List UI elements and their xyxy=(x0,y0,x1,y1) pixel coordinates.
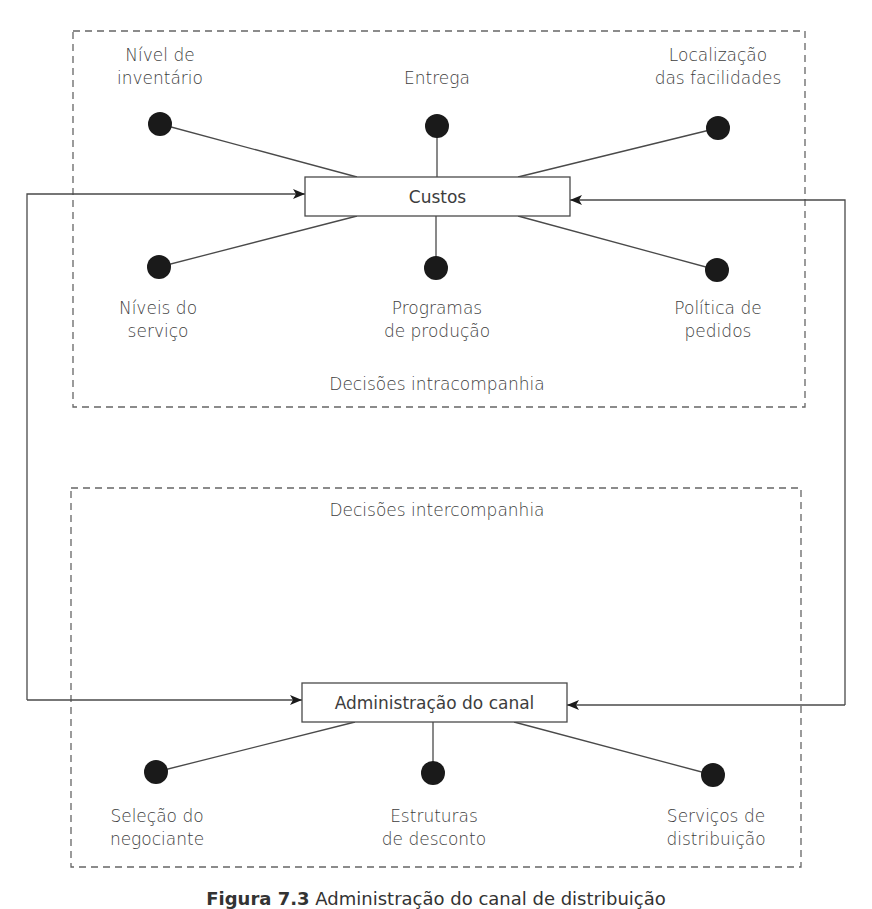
node-dot-pedidos xyxy=(705,258,729,282)
node-label-localizacao: Localização das facilidades xyxy=(655,44,782,90)
admin-canal-label: Administração do canal xyxy=(302,683,567,722)
intra-group-label: Decisões intracompanhia xyxy=(329,373,544,396)
node-dot-desconto xyxy=(421,761,445,785)
node-label-entrega: Entrega xyxy=(404,67,470,90)
inter-group-label: Decisões intercompanhia xyxy=(329,499,544,522)
node-label-producao: Programas de produção xyxy=(384,297,490,343)
node-dot-producao xyxy=(424,256,448,280)
node-dot-distribuicao xyxy=(701,763,725,787)
node-dot-negociante xyxy=(144,760,168,784)
node-label-desconto: Estruturas de desconto xyxy=(382,805,486,851)
node-label-distribuicao: Serviços de distribuição xyxy=(666,805,765,851)
custos-label: Custos xyxy=(305,177,570,216)
node-label-inventario: Nível de inventário xyxy=(117,44,203,90)
node-label-servico: Níveis do serviço xyxy=(119,297,197,343)
node-dot-localizacao xyxy=(706,116,730,140)
figure-number: Figura 7.3 xyxy=(206,888,309,909)
figure-caption: Figura 7.3 Administração do canal de dis… xyxy=(0,888,872,909)
node-label-pedidos: Política de pedidos xyxy=(674,297,761,343)
node-dot-servico xyxy=(147,255,171,279)
node-dot-inventario xyxy=(148,112,172,136)
node-dot-entrega xyxy=(425,114,449,138)
node-label-negociante: Seleção do negociante xyxy=(110,805,204,851)
figure-caption-text: Administração do canal de distribuição xyxy=(315,888,665,909)
